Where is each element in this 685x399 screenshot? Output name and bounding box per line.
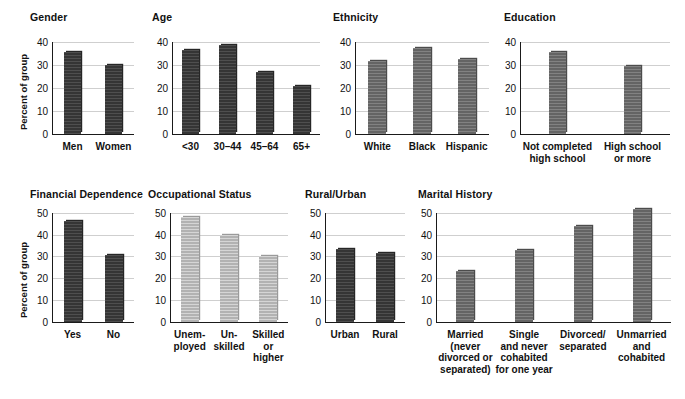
y-tick-label-marital-history-40: 40 [421, 229, 432, 240]
y-tick-label-age-30: 30 [157, 59, 168, 70]
y-tick-label-ethnicity-0: 0 [345, 128, 351, 139]
gridline-occupational-status-30 [170, 256, 288, 257]
y-axis-financial-dependence [52, 213, 53, 323]
gridline-financial-dependence-40 [52, 235, 134, 236]
gridline-ethnicity-30 [355, 65, 489, 66]
y-axis-label-bottom-row: Percent of group [18, 242, 29, 318]
y-tick-label-occupational-status-0: 0 [160, 316, 166, 327]
gridline-gender-20 [52, 88, 134, 89]
gridline-occupational-status-10 [170, 300, 288, 301]
panel-title-occupational-status: Occupational Status [148, 188, 251, 200]
x-axis-label-education-1: High school or more [591, 141, 675, 164]
gridline-age-40 [172, 42, 320, 43]
x-axis-label-occupational-status-0: Unem- ployed [169, 329, 211, 352]
gridline-marital-history-10 [436, 300, 671, 301]
x-axis-label-gender-0: Men [50, 141, 96, 153]
x-axis-label-rural-urban-0: Urban [324, 329, 366, 341]
panel-title-rural-urban: Rural/Urban [305, 188, 366, 200]
y-tick-label-rural-urban-10: 10 [310, 294, 321, 305]
y-tick-label-education-40: 40 [505, 37, 516, 48]
bar-ethnicity-1 [413, 48, 431, 134]
panel-title-ethnicity: Ethnicity [333, 11, 378, 23]
x-axis-ethnicity [355, 134, 489, 135]
y-tick-label-ethnicity-10: 10 [340, 105, 351, 116]
gridline-gender-10 [52, 111, 134, 112]
gridline-marital-history-30 [436, 256, 671, 257]
y-tick-label-marital-history-0: 0 [426, 316, 432, 327]
bar-marital-history-2 [574, 226, 592, 322]
x-axis-label-occupational-status-2: Skilled or higher [247, 329, 289, 364]
gridline-rural-urban-50 [325, 213, 405, 214]
plot-area-age: 010203040 [172, 42, 320, 135]
y-tick-label-marital-history-30: 30 [421, 251, 432, 262]
gridline-age-10 [172, 111, 320, 112]
y-axis-age [172, 42, 173, 135]
y-tick-label-gender-20: 20 [37, 82, 48, 93]
y-tick-label-rural-urban-20: 20 [310, 273, 321, 284]
y-tick-label-marital-history-20: 20 [421, 273, 432, 284]
gridline-occupational-status-40 [170, 235, 288, 236]
panel-title-age: Age [152, 11, 172, 23]
y-tick-label-occupational-status-20: 20 [155, 273, 166, 284]
y-tick-label-rural-urban-50: 50 [310, 208, 321, 219]
x-axis-marital-history [436, 322, 671, 323]
x-axis-label-financial-dependence-1: No [92, 329, 136, 341]
y-axis-occupational-status [170, 213, 171, 323]
x-axis-rural-urban [325, 322, 405, 323]
bar-rural-urban-1 [376, 253, 394, 322]
x-axis-label-financial-dependence-0: Yes [51, 329, 95, 341]
x-axis-occupational-status [170, 322, 288, 323]
x-axis-label-rural-urban-1: Rural [364, 329, 406, 341]
x-axis-label-age-3: 65+ [281, 141, 323, 153]
x-axis-label-age-2: 45–64 [244, 141, 286, 153]
y-axis-ethnicity [355, 42, 356, 135]
x-axis-label-marital-history-2: Divorced/ separated [546, 329, 620, 352]
bar-occupational-status-0 [181, 217, 199, 321]
gridline-rural-urban-20 [325, 278, 405, 279]
bar-education-0 [549, 52, 566, 134]
x-axis-label-age-1: 30–44 [207, 141, 249, 153]
gridline-education-40 [520, 42, 670, 43]
y-tick-label-education-30: 30 [505, 59, 516, 70]
gridline-financial-dependence-10 [52, 300, 134, 301]
bar-financial-dependence-0 [64, 221, 82, 322]
x-axis-label-gender-1: Women [91, 141, 137, 153]
gridline-rural-urban-10 [325, 300, 405, 301]
x-axis-education [520, 134, 670, 135]
bar-occupational-status-1 [220, 235, 238, 321]
y-tick-label-financial-dependence-20: 20 [37, 273, 48, 284]
x-axis-label-occupational-status-1: Un- skilled [208, 329, 250, 352]
y-tick-label-ethnicity-20: 20 [340, 82, 351, 93]
y-tick-label-rural-urban-30: 30 [310, 251, 321, 262]
bar-age-1 [219, 45, 236, 134]
bar-marital-history-0 [456, 271, 474, 322]
plot-area-gender: 010203040 [52, 42, 134, 135]
y-tick-label-age-0: 0 [162, 128, 168, 139]
gridline-gender-40 [52, 42, 134, 43]
bar-age-0 [182, 50, 199, 134]
x-axis-label-education-0: Not completed high school [516, 141, 600, 164]
x-axis-gender [52, 134, 134, 135]
bar-marital-history-3 [633, 209, 651, 322]
panel-title-marital-history: Marital History [418, 188, 492, 200]
panel-marital-history: Marital HistoryMarried (never divorced o… [0, 0, 685, 399]
gridline-financial-dependence-20 [52, 278, 134, 279]
gridline-marital-history-40 [436, 235, 671, 236]
y-axis-rural-urban [325, 213, 326, 323]
bar-financial-dependence-1 [105, 255, 123, 321]
y-tick-label-financial-dependence-50: 50 [37, 208, 48, 219]
gridline-financial-dependence-50 [52, 213, 134, 214]
bar-rural-urban-0 [336, 249, 354, 322]
panel-rural-urban: Rural/UrbanUrbanRural01020304050 [0, 0, 685, 399]
x-axis-age [172, 134, 320, 135]
y-tick-label-age-10: 10 [157, 105, 168, 116]
plot-area-education: 010203040 [520, 42, 670, 135]
y-tick-label-financial-dependence-40: 40 [37, 229, 48, 240]
panel-ethnicity: EthnicityWhiteBlackHispanic010203040 [0, 0, 685, 399]
gridline-financial-dependence-30 [52, 256, 134, 257]
y-tick-label-gender-0: 0 [42, 128, 48, 139]
bar-occupational-status-2 [259, 256, 277, 321]
y-tick-label-financial-dependence-10: 10 [37, 294, 48, 305]
gridline-rural-urban-40 [325, 235, 405, 236]
y-axis-label-top-row: Percent of group [18, 54, 29, 130]
